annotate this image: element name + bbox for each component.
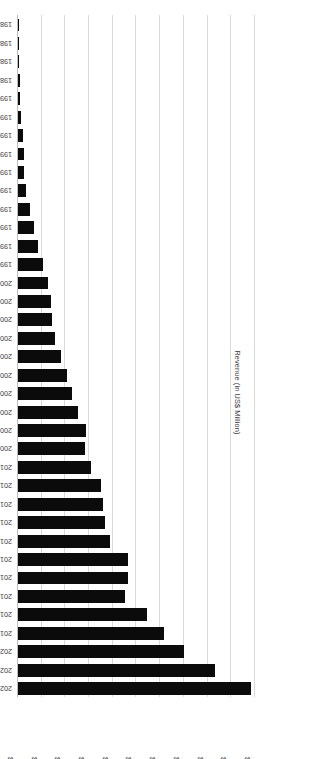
category-label: 2013	[0, 518, 12, 527]
bar-series: 2022202120202019201820172016201520142013…	[0, 15, 268, 697]
chart-page: Revenue (in US$ Million) $200,000$180,00…	[0, 0, 313, 759]
plot-area: 2022202120202019201820172016201520142013…	[0, 15, 268, 697]
bar[interactable]	[18, 664, 215, 677]
bar-row[interactable]: 2003	[0, 332, 268, 345]
bar[interactable]	[18, 129, 23, 142]
source-note: Source: Bloomberg Finance L.P.	[297, 753, 311, 759]
bar-row[interactable]: 1999	[0, 258, 268, 271]
bar-row[interactable]: 1988	[0, 55, 268, 68]
category-label: 2014	[0, 537, 12, 546]
bar-row[interactable]: 2013	[0, 516, 268, 529]
bar-row[interactable]: 2015	[0, 553, 268, 566]
category-label: 1986	[0, 21, 12, 30]
bar-row[interactable]: 2000	[0, 277, 268, 290]
bar-row[interactable]: 1989	[0, 74, 268, 87]
bar[interactable]	[18, 55, 19, 68]
category-label: 2002	[0, 315, 12, 324]
bar[interactable]	[18, 221, 34, 234]
bar[interactable]	[18, 553, 128, 566]
bar-row[interactable]: 2021	[0, 664, 268, 677]
bar[interactable]	[18, 608, 147, 621]
category-label: 2000	[0, 279, 12, 288]
bar-row[interactable]: 1990	[0, 92, 268, 105]
bar-row[interactable]: 2014	[0, 535, 268, 548]
bar-row[interactable]: 2005	[0, 369, 268, 382]
bar[interactable]	[18, 627, 164, 640]
bar[interactable]	[18, 406, 78, 419]
bar-row[interactable]: 2009	[0, 443, 268, 456]
bar-row[interactable]: 2001	[0, 295, 268, 308]
bar[interactable]	[18, 19, 19, 32]
category-label: 2017	[0, 592, 12, 601]
bar-row[interactable]: 1987	[0, 37, 268, 50]
category-label: 1994	[0, 168, 12, 177]
bar-row[interactable]: 2011	[0, 479, 268, 492]
bar-row[interactable]: 1993	[0, 148, 268, 161]
bar-row[interactable]: 1994	[0, 166, 268, 179]
category-label: 2012	[0, 500, 12, 509]
bar-chart: Revenue (in US$ Million) $200,000$180,00…	[0, 0, 268, 759]
bar[interactable]	[18, 424, 86, 437]
bar-row[interactable]: 2017	[0, 590, 268, 603]
category-label: 2008	[0, 426, 12, 435]
bar[interactable]	[18, 369, 67, 382]
bar-row[interactable]: 2002	[0, 313, 268, 326]
bar-row[interactable]: 2004	[0, 350, 268, 363]
category-label: 1992	[0, 131, 12, 140]
bar-row[interactable]: 1986	[0, 19, 268, 32]
bar-row[interactable]: 2010	[0, 461, 268, 474]
bar[interactable]	[18, 682, 251, 695]
bar[interactable]	[18, 37, 19, 50]
bar-row[interactable]: 1991	[0, 111, 268, 124]
bar[interactable]	[18, 645, 184, 658]
bar-row[interactable]: 1992	[0, 129, 268, 142]
bar-row[interactable]: 1995	[0, 184, 268, 197]
category-label: 2001	[0, 297, 12, 306]
bar-row[interactable]: 2006	[0, 387, 268, 400]
bar[interactable]	[18, 332, 55, 345]
bar[interactable]	[18, 74, 20, 87]
bar-row[interactable]: 2008	[0, 424, 268, 437]
bar-row[interactable]: 1996	[0, 203, 268, 216]
bar[interactable]	[18, 92, 20, 105]
bar-row[interactable]: 2022	[0, 682, 268, 695]
category-label: 1990	[0, 94, 12, 103]
bar[interactable]	[18, 350, 61, 363]
category-label: 1995	[0, 186, 12, 195]
bar[interactable]	[18, 535, 110, 548]
value-axis-tick-labels: $200,000$180,000$160,000$140,000$120,000…	[0, 697, 268, 759]
bar[interactable]	[18, 166, 24, 179]
bar-row[interactable]: 2007	[0, 406, 268, 419]
bar[interactable]	[18, 313, 52, 326]
category-label: 1988	[0, 57, 12, 66]
bar[interactable]	[18, 258, 43, 271]
category-label: 2015	[0, 555, 12, 564]
bar[interactable]	[18, 479, 101, 492]
bar[interactable]	[18, 461, 91, 474]
bar[interactable]	[18, 572, 128, 585]
bar[interactable]	[18, 387, 72, 400]
bar-row[interactable]: 2012	[0, 498, 268, 511]
bar[interactable]	[18, 277, 48, 290]
bar[interactable]	[18, 240, 38, 253]
bar[interactable]	[18, 295, 51, 308]
category-label: 1997	[0, 223, 12, 232]
bar[interactable]	[18, 203, 30, 216]
bar[interactable]	[18, 111, 21, 124]
bar[interactable]	[18, 498, 103, 511]
bar-row[interactable]: 2020	[0, 645, 268, 658]
bar[interactable]	[18, 516, 105, 529]
bar[interactable]	[18, 148, 24, 161]
bar-row[interactable]: 1998	[0, 240, 268, 253]
category-label: 2016	[0, 573, 12, 582]
bar-row[interactable]: 2019	[0, 627, 268, 640]
bar-row[interactable]: 1997	[0, 221, 268, 234]
bar-row[interactable]: 2016	[0, 572, 268, 585]
category-label: 1987	[0, 39, 12, 48]
category-label: 2018	[0, 610, 12, 619]
bar[interactable]	[18, 590, 125, 603]
bar[interactable]	[18, 184, 26, 197]
category-label: 1989	[0, 76, 12, 85]
bar[interactable]	[18, 443, 85, 456]
bar-row[interactable]: 2018	[0, 608, 268, 621]
